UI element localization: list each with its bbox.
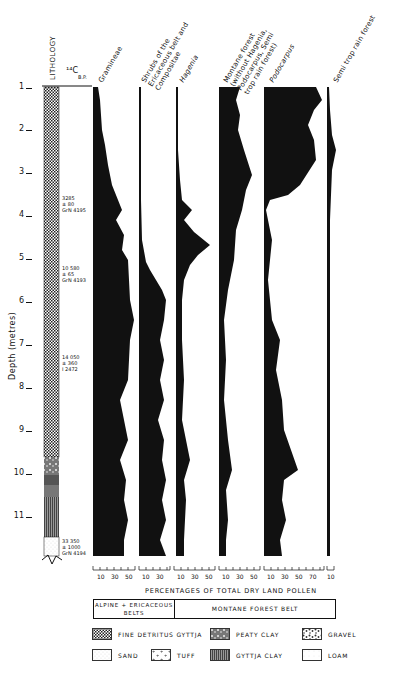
x-tick: 10: [267, 573, 275, 580]
x-tick: 50: [125, 573, 133, 580]
x-tick: 30: [281, 573, 289, 580]
date-2: 10 580 ± 65 GrN 4193: [62, 265, 86, 283]
x-tick: 70: [309, 573, 317, 580]
legend-label: SAND: [118, 652, 138, 659]
x-tick: 50: [250, 573, 258, 580]
x-tick: 10: [222, 573, 230, 580]
date-4: 33 350 ± 1000 GrN 4194: [62, 538, 86, 556]
x-tick: 50: [295, 573, 303, 580]
curve-gramineae: [93, 87, 134, 556]
x-tick: 30: [191, 573, 199, 580]
date-3: 14 050 ± 360 I 2472: [62, 354, 80, 372]
legend-fine-detritus-gyttja: FINE DETRITUS GYTTJA: [92, 628, 202, 641]
x-tick: 10: [327, 573, 335, 580]
legend-sand: SAND: [92, 649, 138, 662]
curve-shrubs: [139, 87, 166, 556]
date-lab: GrN 4194: [62, 550, 86, 556]
zone-montane: MONTANE FOREST BELT: [175, 600, 335, 618]
x-tick: 30: [111, 573, 119, 580]
date-lab: GrN 4193: [62, 277, 86, 283]
x-tick: 10: [142, 573, 150, 580]
legend-label: PEATY CLAY: [236, 631, 279, 638]
x-tick: 30: [236, 573, 244, 580]
x-tick: 10: [177, 573, 185, 580]
curve-hagenia: [176, 87, 210, 556]
zone-bar: ALPINE + ERICACEOUS BELTS MONTANE FOREST…: [93, 599, 336, 619]
x-tick: 50: [205, 573, 213, 580]
legend-label: TUFF: [177, 652, 195, 659]
x-tick: 10: [97, 573, 105, 580]
legend-label: FINE DETRITUS GYTTJA: [118, 631, 202, 638]
legend-tuff: TUFF: [151, 649, 195, 662]
legend-gravel: GRAVEL: [302, 628, 356, 641]
curve-podocarpus: [264, 87, 322, 556]
pollen-diagram: + +: [0, 0, 398, 674]
x-axis-label: PERCENTAGES OF TOTAL DRY LAND POLLEN: [145, 587, 317, 595]
legend-peaty-clay: PEATY CLAY: [210, 628, 279, 641]
legend-gyttja-clay: GYTTJA CLAY: [210, 649, 283, 662]
lithology-column: [42, 87, 62, 564]
x-tick: 30: [156, 573, 164, 580]
zone-alpine: ALPINE + ERICACEOUS BELTS: [94, 600, 175, 618]
legend-label: GRAVEL: [328, 631, 356, 638]
curve-montane: [219, 87, 252, 556]
curve-semitrop: [327, 87, 336, 556]
x-axis-scales: [93, 566, 334, 570]
date-lab: GrN 4195: [62, 207, 86, 213]
legend-label: LOAM: [328, 652, 348, 659]
legend-loam: LOAM: [302, 649, 348, 662]
date-1: 3285 ± 80 GrN 4195: [62, 195, 86, 213]
date-lab: I 2472: [62, 366, 80, 372]
legend-label: GYTTJA CLAY: [236, 652, 283, 659]
